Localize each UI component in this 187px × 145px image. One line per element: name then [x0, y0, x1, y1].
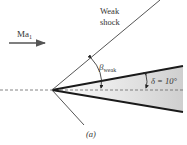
inflow-mach-label: Ma1: [17, 29, 32, 40]
weak-shock-label-line2: shock: [100, 17, 121, 27]
weak-shock-label-line1: Weak: [100, 6, 120, 16]
delta-angle-label: δ = 10°: [151, 76, 177, 86]
figure-caption: (a): [86, 129, 96, 139]
wedge-body: [52, 66, 183, 112]
beta-weak-label: βweak: [98, 62, 116, 73]
oblique-shock-diagram: Ma1 Weak shock βweak δ = 10° (a): [0, 0, 187, 145]
